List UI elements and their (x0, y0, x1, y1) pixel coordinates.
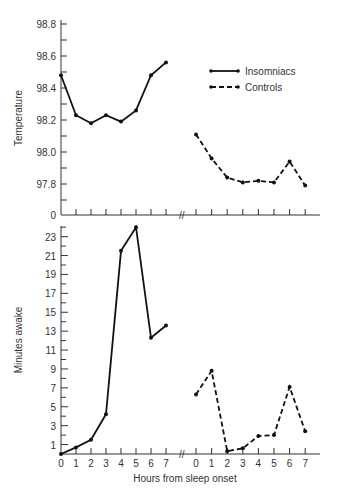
y-tick-label: 5 (50, 402, 56, 413)
sleep-figure: 98.898.698.498.298.097.80 // Temperature… (0, 0, 344, 497)
y-tick-label: 21 (45, 251, 57, 262)
minutes-axis-break: // (179, 449, 185, 460)
temperature-x-ticks (76, 209, 305, 215)
data-point (272, 180, 276, 184)
y-tick-label: 15 (45, 307, 57, 318)
data-point (194, 392, 198, 396)
data-point (104, 412, 108, 416)
temperature-y-label: Temperature (13, 89, 24, 146)
series-line-insomniacs (61, 227, 166, 454)
y-tick-label: 19 (45, 269, 57, 280)
data-point (119, 249, 123, 253)
x-tick-label: 0 (193, 458, 199, 469)
data-point (104, 113, 108, 117)
data-point (288, 385, 292, 389)
x-tick-label: 4 (118, 458, 124, 469)
series-line-controls (196, 371, 305, 451)
x-tick-label: 2 (88, 458, 94, 469)
x-tick-label: 0 (58, 458, 64, 469)
data-point (119, 120, 123, 124)
x-tick-label: 5 (271, 458, 277, 469)
x-tick-label: 6 (148, 458, 154, 469)
y-tick-label: 0 (50, 210, 56, 221)
data-point (303, 184, 307, 188)
temperature-series (59, 60, 307, 187)
temperature-panel: 98.898.698.498.298.097.80 // Temperature… (13, 19, 320, 221)
legend-item-controls: Controls (209, 82, 282, 93)
y-tick-label: 98.4 (37, 83, 57, 94)
data-point (134, 108, 138, 112)
x-tick-label: 5 (133, 458, 139, 469)
data-point (59, 452, 63, 456)
legend: Insomniacs Controls (209, 66, 295, 93)
data-point (210, 156, 214, 160)
legend-label-controls: Controls (245, 82, 282, 93)
y-tick-label: 11 (46, 345, 57, 356)
minutes-y-ticks: 2321191715131197531 (45, 227, 68, 450)
legend-marker-icon (209, 69, 213, 73)
data-point (303, 429, 307, 433)
legend-marker-icon (236, 69, 240, 73)
legend-marker-icon (236, 85, 240, 89)
data-point (256, 179, 260, 183)
x-tick-label: 1 (209, 458, 215, 469)
data-point (225, 176, 229, 180)
data-point (256, 434, 260, 438)
data-point (74, 445, 78, 449)
minutes-series (59, 225, 307, 456)
y-tick-label: 17 (45, 288, 57, 299)
data-point (272, 433, 276, 437)
data-point (164, 323, 168, 327)
data-point (241, 446, 245, 450)
y-tick-label: 23 (45, 232, 57, 243)
data-point (225, 449, 229, 453)
minutes-awake-panel: 2321191715131197531 0011223344556677 // … (13, 225, 320, 484)
data-point (149, 73, 153, 77)
data-point (74, 113, 78, 117)
y-tick-label: 98.0 (37, 147, 57, 158)
y-tick-label: 1 (50, 440, 56, 451)
data-point (149, 336, 153, 340)
data-point (134, 225, 138, 229)
data-point (210, 369, 214, 373)
data-point (164, 60, 168, 64)
x-tick-label: 1 (73, 458, 79, 469)
y-tick-label: 97.8 (37, 179, 57, 190)
x-tick-label: 7 (302, 458, 308, 469)
data-point (89, 121, 93, 125)
y-tick-label: 13 (45, 326, 57, 337)
legend-marker-icon (209, 85, 213, 89)
data-point (288, 160, 292, 164)
data-point (241, 180, 245, 184)
data-point (89, 438, 93, 442)
x-axis-title: Hours from sleep onset (133, 473, 237, 484)
temperature-y-ticks: 98.898.698.498.298.097.80 (37, 19, 67, 221)
data-point (59, 73, 63, 77)
data-point (194, 132, 198, 136)
x-tick-label: 6 (287, 458, 293, 469)
x-tick-label: 2 (224, 458, 230, 469)
x-tick-label: 3 (103, 458, 109, 469)
legend-item-insomniacs: Insomniacs (209, 66, 295, 77)
temperature-axis-break: // (179, 210, 185, 221)
y-tick-label: 98.2 (37, 115, 57, 126)
y-tick-label: 98.6 (37, 51, 57, 62)
legend-label-insomniacs: Insomniacs (245, 66, 296, 77)
y-tick-label: 3 (50, 421, 56, 432)
x-tick-label: 3 (240, 458, 246, 469)
y-tick-label: 7 (50, 383, 56, 394)
x-tick-label: 4 (256, 458, 262, 469)
y-tick-label: 9 (50, 364, 56, 375)
minutes-y-label: Minutes awake (13, 306, 24, 373)
chart-canvas: 98.898.698.498.298.097.80 // Temperature… (0, 0, 344, 497)
y-tick-label: 98.8 (37, 19, 57, 30)
x-tick-label: 7 (163, 458, 169, 469)
